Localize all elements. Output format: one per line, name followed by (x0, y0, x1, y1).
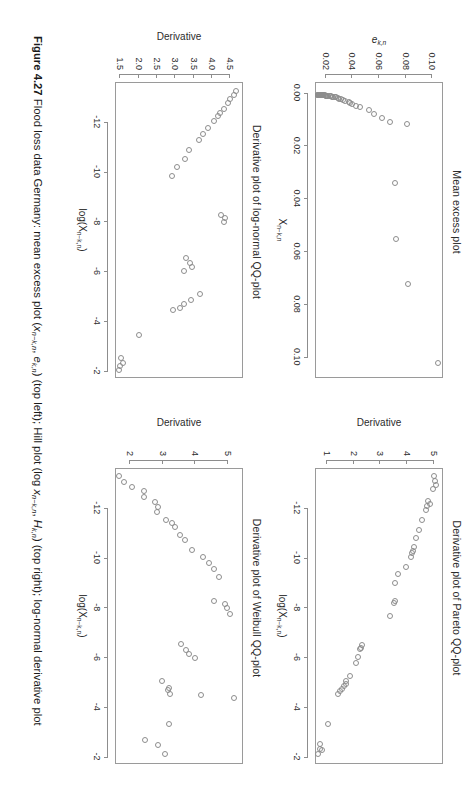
x-tick-label: -6 (92, 267, 102, 275)
x-tick (104, 321, 108, 322)
x-tick-label: -6 (92, 653, 102, 661)
data-point (211, 598, 217, 604)
y-axis-title: ek,n (372, 34, 386, 46)
x-axis-line (307, 93, 308, 357)
data-point (154, 509, 160, 515)
y-axis-line (326, 74, 433, 75)
data-point (391, 600, 397, 606)
y-tick (379, 460, 380, 464)
data-point (166, 721, 172, 727)
panel-mean-excess-plot: Mean excess plot0.000.020.040.060.080.10… (267, 26, 463, 398)
y-tick (174, 74, 175, 78)
y-tick (433, 460, 434, 464)
x-tick-label: 0.06 (292, 242, 302, 260)
panel-pareto-qq-derivative-plot: Derivative plot of Pareto QQ-plot-12-10-… (267, 412, 463, 784)
data-point (315, 92, 321, 98)
data-point (205, 125, 211, 131)
data-point (169, 173, 175, 179)
data-point (216, 574, 222, 580)
x-axis-title: log(Xn−k,n) (276, 594, 288, 637)
plot-title: Derivative plot of log-normal QQ-plot (251, 26, 263, 398)
y-tick (193, 74, 194, 78)
panel-lognormal-qq-derivative-plot: Derivative plot of log-normal QQ-plot-12… (67, 26, 263, 398)
y-tick (351, 74, 352, 78)
y-tick (211, 74, 212, 78)
y-axis-line (130, 460, 228, 461)
x-tick-label: -10 (92, 165, 102, 178)
y-tick-label: 2.0 (134, 26, 144, 70)
y-tick-label: 1.5 (116, 26, 126, 70)
x-tick (104, 221, 108, 222)
y-tick (156, 74, 157, 78)
y-tick (405, 74, 406, 78)
data-point (142, 737, 148, 743)
x-tick (304, 357, 308, 358)
x-tick (104, 508, 108, 509)
data-point (197, 291, 203, 297)
y-tick (406, 460, 407, 464)
data-point (181, 268, 187, 274)
x-tick-label: -6 (292, 653, 302, 661)
y-tick (326, 460, 327, 464)
x-tick-label: -10 (292, 551, 302, 564)
data-point (155, 742, 161, 748)
y-tick (353, 460, 354, 464)
x-tick-label: 0.04 (292, 190, 302, 208)
y-tick-label: 5 (223, 412, 233, 456)
y-tick-label: 2 (125, 412, 135, 456)
data-point (379, 115, 385, 121)
figure-caption: Figure 4.27 Flood loss data Germany: mea… (29, 36, 45, 778)
page-root: Mean excess plot0.000.020.040.060.080.10… (0, 0, 469, 802)
data-point (189, 264, 195, 270)
x-tick (104, 707, 108, 708)
y-tick-label: 0.02 (321, 26, 331, 70)
data-point (116, 367, 122, 373)
y-tick-label: 1 (322, 412, 332, 456)
y-tick-label: 5 (429, 412, 439, 456)
data-point (177, 305, 183, 311)
data-point (430, 486, 436, 492)
y-tick (431, 74, 432, 78)
x-tick (304, 757, 308, 758)
data-point (211, 566, 217, 572)
data-point (408, 554, 414, 560)
x-tick-label: -12 (92, 115, 102, 128)
data-point (198, 692, 204, 698)
x-tick (304, 558, 308, 559)
x-tick (104, 607, 108, 608)
plot-title: Mean excess plot (451, 26, 463, 398)
x-tick-label: 0.08 (292, 295, 302, 313)
plot-title: Derivative plot of Pareto QQ-plot (451, 412, 463, 784)
data-point (159, 678, 165, 684)
rotated-page-stage: Mean excess plot0.000.020.040.060.080.10… (0, 0, 469, 802)
data-point (353, 660, 359, 666)
y-tick (162, 460, 163, 464)
x-tick (104, 172, 108, 173)
data-point (405, 281, 411, 287)
data-point (416, 527, 422, 533)
data-point (225, 100, 231, 106)
x-tick (304, 304, 308, 305)
x-tick-label: -4 (292, 703, 302, 711)
caption-symbol-x1-sub: n−k,n (30, 332, 39, 350)
data-point (174, 164, 180, 170)
x-tick-label: -12 (92, 501, 102, 514)
data-point (141, 488, 147, 494)
x-axis-title: log(Xn−k,n) (76, 594, 88, 637)
x-tick-label: -4 (92, 317, 102, 325)
data-point (196, 137, 202, 143)
x-tick (304, 251, 308, 252)
x-tick (104, 558, 108, 559)
x-tick-label: -10 (92, 551, 102, 564)
x-tick (104, 271, 108, 272)
data-point (435, 360, 441, 366)
caption-seg-5: ) (top right); log-normal derivative plo… (32, 538, 44, 726)
data-point (116, 473, 122, 479)
data-point (387, 119, 393, 125)
data-point (315, 751, 321, 757)
data-point (224, 605, 230, 611)
data-point (357, 646, 363, 652)
data-point (355, 654, 361, 660)
y-tick-label: 4 (402, 412, 412, 456)
data-point (189, 547, 195, 553)
